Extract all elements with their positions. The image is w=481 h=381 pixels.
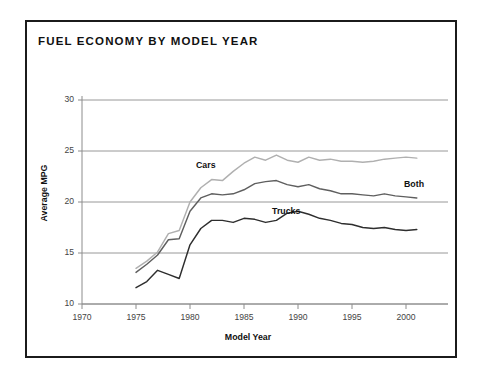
y-axis-title: Average MPG: [39, 143, 49, 243]
tick-marks-group: [78, 100, 406, 309]
series-lines-group: [136, 155, 417, 288]
y-tick-label: 15: [50, 247, 74, 257]
chart-figure: FUEL ECONOMY BY MODEL YEAR 1015202530 19…: [0, 0, 481, 381]
x-tick-label: 1980: [170, 312, 210, 322]
series-label-both: Both: [404, 179, 424, 189]
x-tick-label: 1985: [224, 312, 264, 322]
series-label-trucks: Trucks: [272, 206, 300, 216]
x-tick-label: 1995: [332, 312, 372, 322]
plot-area: [0, 0, 481, 381]
gridlines-group: [82, 100, 448, 304]
y-tick-label: 30: [50, 94, 74, 104]
x-tick-label: 1975: [116, 312, 156, 322]
x-tick-label: 1970: [62, 312, 102, 322]
y-tick-label: 20: [50, 196, 74, 206]
x-tick-label: 1990: [278, 312, 318, 322]
y-tick-label: 25: [50, 145, 74, 155]
x-axis-title: Model Year: [198, 332, 298, 342]
y-tick-label: 10: [50, 298, 74, 308]
x-tick-label: 2000: [386, 312, 426, 322]
axis-lines-group: [82, 96, 448, 304]
series-label-cars: Cars: [196, 160, 216, 170]
